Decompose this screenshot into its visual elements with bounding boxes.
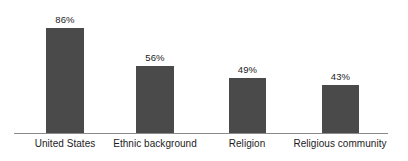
x-axis-line [14,133,388,134]
bar-value-label: 49% [238,65,257,75]
bar-value-label: 43% [331,72,350,82]
category-label-religious-community: Religious community [293,138,386,150]
bar-group-religious-community: 43% [322,85,359,134]
bar-united-states[interactable] [46,28,84,134]
bar-value-label: 86% [55,15,74,25]
bar-group-religion: 49% [229,78,266,134]
bar-religious-community[interactable] [322,85,359,134]
bar-group-united-states: 86% [46,28,84,134]
bar-chart: 86% 56% 49% 43% United States Ethnic bac… [0,0,408,161]
category-label-ethnic-background: Ethnic background [113,138,197,150]
bar-group-ethnic-background: 56% [136,66,174,134]
plot-area: 86% 56% 49% 43% [0,0,408,134]
category-label-religion: Religion [229,138,266,150]
bar-religion[interactable] [229,78,266,134]
category-label-united-states: United States [35,138,96,150]
bar-value-label: 56% [145,53,164,63]
bar-ethnic-background[interactable] [136,66,174,134]
x-axis-category-labels: United States Ethnic background Religion… [0,138,408,161]
